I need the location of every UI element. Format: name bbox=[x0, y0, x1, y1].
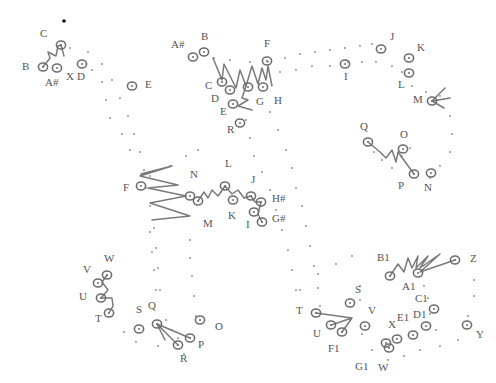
trail-dot bbox=[189, 257, 191, 259]
point-label: X bbox=[66, 70, 74, 82]
circled-point-marker bbox=[257, 218, 266, 226]
circled-point-marker bbox=[77, 60, 86, 68]
trail-dot bbox=[229, 59, 231, 61]
trail-dot bbox=[279, 71, 281, 73]
circled-point-marker bbox=[173, 341, 182, 349]
trail-dot bbox=[105, 99, 107, 101]
point-label: D bbox=[77, 70, 85, 82]
trail-dot bbox=[361, 61, 363, 63]
circled-point-marker bbox=[127, 82, 136, 90]
point-label: S bbox=[136, 303, 142, 315]
circled-point-marker bbox=[404, 69, 413, 77]
point-label: L bbox=[225, 157, 232, 169]
trail-dot bbox=[295, 187, 297, 189]
trail-dot bbox=[295, 289, 297, 291]
point-label: G1 bbox=[355, 360, 368, 372]
circled-point-marker bbox=[450, 256, 459, 264]
trail-dot bbox=[197, 149, 199, 151]
circled-point-marker bbox=[249, 208, 258, 216]
trail-dot bbox=[157, 345, 159, 347]
circled-point-marker bbox=[93, 279, 102, 287]
point-label: K bbox=[228, 209, 236, 221]
circled-point-marker bbox=[385, 272, 394, 280]
trail-dot bbox=[155, 289, 157, 291]
trail-dot bbox=[245, 119, 247, 121]
point-label: B1 bbox=[377, 251, 390, 263]
trail-dot bbox=[269, 111, 271, 113]
point-label: M bbox=[203, 217, 213, 229]
trail-dot bbox=[91, 69, 93, 71]
trail-dot bbox=[359, 45, 361, 47]
trail-dot bbox=[335, 263, 337, 265]
bottom-left-cluster-stroke bbox=[157, 324, 190, 345]
circled-point-marker bbox=[337, 328, 346, 336]
trail-dot bbox=[329, 49, 331, 51]
point-label: N bbox=[424, 181, 432, 193]
circled-point-marker bbox=[185, 334, 194, 342]
point-label: V bbox=[83, 263, 91, 275]
circled-point-marker bbox=[243, 83, 252, 91]
trail-dot bbox=[311, 65, 313, 67]
point-label: A1 bbox=[402, 280, 415, 292]
trail-dot bbox=[177, 337, 179, 339]
circled-point-marker bbox=[384, 344, 393, 352]
trail-dot bbox=[375, 61, 377, 63]
trail-dot bbox=[473, 295, 475, 297]
trail-dot bbox=[317, 287, 319, 289]
trail-dot bbox=[87, 51, 89, 53]
trail-dot bbox=[109, 117, 111, 119]
trail-dot bbox=[155, 247, 157, 249]
trail-dot bbox=[411, 85, 413, 87]
point-label: V bbox=[368, 304, 376, 316]
point-label: I bbox=[344, 70, 348, 82]
point-label: D bbox=[211, 92, 219, 104]
point-label: G bbox=[256, 95, 264, 107]
trail-dot bbox=[314, 51, 316, 53]
point-label: J bbox=[390, 30, 395, 42]
point-label: S bbox=[355, 283, 361, 295]
trail-dot bbox=[101, 63, 103, 65]
trail-dot bbox=[351, 255, 353, 257]
point-label: D1 bbox=[413, 308, 426, 320]
trail-dot bbox=[127, 115, 129, 117]
trail-dot bbox=[151, 251, 153, 253]
point-label: G# bbox=[272, 212, 286, 224]
circled-point-marker bbox=[426, 169, 435, 177]
trail-dot bbox=[359, 299, 361, 301]
trail-dot bbox=[143, 169, 145, 171]
circled-point-marker bbox=[429, 305, 438, 313]
point-label: O bbox=[215, 320, 223, 332]
trail-dot bbox=[371, 43, 373, 45]
trail-dot bbox=[185, 155, 187, 157]
trail-dot bbox=[121, 133, 123, 135]
circled-point-marker bbox=[246, 192, 255, 200]
trail-dot bbox=[473, 279, 475, 281]
trail-dot bbox=[69, 47, 71, 49]
trail-dot bbox=[135, 341, 137, 343]
trail-dot bbox=[253, 155, 255, 157]
trail-dot bbox=[371, 349, 373, 351]
point-label: R bbox=[180, 352, 188, 364]
point-label: P bbox=[398, 179, 404, 191]
trail-dot bbox=[277, 129, 279, 131]
circled-point-marker bbox=[104, 309, 113, 317]
trail-dot bbox=[295, 69, 297, 71]
circled-point-marker bbox=[52, 64, 61, 72]
trail-dot bbox=[291, 269, 293, 271]
trail-dot bbox=[373, 151, 375, 153]
point-label: Q bbox=[360, 120, 368, 132]
circled-point-marker bbox=[228, 196, 237, 204]
point-label: Z bbox=[470, 252, 477, 264]
trail-dot bbox=[319, 305, 321, 307]
trail-dot bbox=[391, 65, 393, 67]
point-label: I bbox=[246, 218, 250, 230]
circled-point-marker bbox=[408, 331, 417, 339]
trail-dot bbox=[449, 115, 451, 117]
point-label: C bbox=[205, 79, 212, 91]
point-label: M bbox=[413, 93, 423, 105]
circled-point-marker bbox=[326, 321, 335, 329]
trail-dot bbox=[275, 209, 277, 211]
trail-dot bbox=[119, 97, 121, 99]
trail-dot bbox=[299, 53, 301, 55]
point-label: N bbox=[190, 168, 198, 180]
